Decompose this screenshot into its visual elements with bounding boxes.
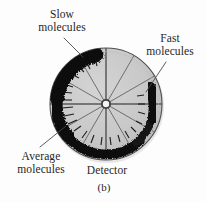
label-fast-molecules-line2: molecules <box>134 45 206 58</box>
label-average-molecules: Average molecules <box>2 150 80 175</box>
disk-center-hub <box>101 99 111 109</box>
label-fast-molecules: Fast molecules <box>134 32 206 57</box>
label-average-molecules-line1: Average <box>2 150 80 163</box>
figure-caption: (b) <box>80 181 128 194</box>
label-slow-molecules-line2: molecules <box>24 21 100 34</box>
deposit-right-segment <box>150 87 154 118</box>
label-detector-line1: Detector <box>76 164 138 177</box>
label-slow-molecules: Slow molecules <box>24 8 100 33</box>
figure-caption-text: (b) <box>80 181 128 194</box>
label-slow-molecules-line1: Slow <box>24 8 100 21</box>
figure-panel-b: Slow molecules Fast molecules Average mo… <box>0 0 207 203</box>
label-detector: Detector <box>76 164 138 177</box>
label-average-molecules-line2: molecules <box>2 163 80 176</box>
label-fast-molecules-line1: Fast <box>134 32 206 45</box>
slow-molecules-leader <box>64 38 83 57</box>
